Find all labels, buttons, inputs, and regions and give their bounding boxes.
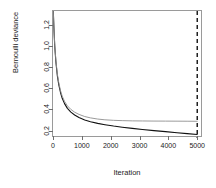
- x-tick-label: 4000: [161, 142, 177, 149]
- y-tick-label: 0.8: [44, 67, 51, 77]
- x-tick-label: 0: [51, 142, 55, 149]
- x-axis-title: Iteration: [113, 168, 140, 177]
- x-tick-mark: [53, 136, 54, 140]
- y-tick-label: 0.2: [44, 131, 51, 141]
- y-tick-label: 0.4: [44, 109, 51, 119]
- plot-svg: [53, 11, 203, 138]
- y-tick-label: 1.0: [44, 46, 51, 56]
- x-tick-mark: [168, 136, 169, 140]
- x-tick-label: 3000: [132, 142, 148, 149]
- figure-canvas: Bernoulli deviance Iteration 0.20.40.60.…: [0, 0, 216, 188]
- x-tick-label: 5000: [189, 142, 205, 149]
- x-tick-mark: [82, 136, 83, 140]
- y-tick-label: 1.2: [44, 25, 51, 35]
- plot-area: 0.20.40.60.81.01.2010002000300040005000: [52, 10, 202, 137]
- series-line-cv-deviance: [53, 11, 197, 121]
- x-tick-label: 1000: [74, 142, 90, 149]
- series-line-train-deviance: [53, 11, 197, 135]
- x-tick-label: 2000: [103, 142, 119, 149]
- x-tick-mark: [197, 136, 198, 140]
- y-tick-label: 0.6: [44, 88, 51, 98]
- y-axis-title: Bernoulli deviance: [11, 12, 20, 73]
- x-tick-mark: [140, 136, 141, 140]
- x-tick-mark: [111, 136, 112, 140]
